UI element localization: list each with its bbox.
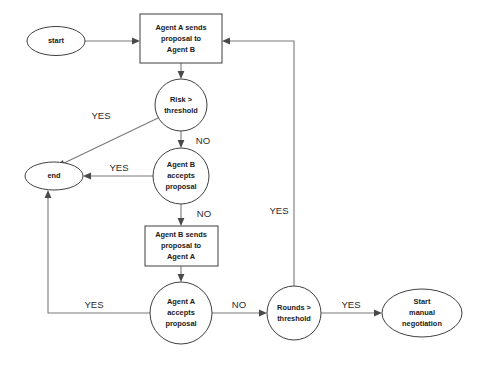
edge-label-agent-b-no: NO [197, 208, 211, 219]
edge-agent-b-accepts-to-end-yes: YES [83, 162, 153, 180]
node-agent-b-accepts-line3: proposal [165, 182, 196, 191]
node-agent-a-sends-line1: Agent A sends [155, 23, 206, 32]
arrow-head-icon [83, 173, 91, 180]
node-risk-threshold[interactable]: Risk > threshold [155, 79, 207, 131]
arrow-head-icon [178, 274, 185, 282]
edge-agent-b-accepts-to-agent-b-sends-no: NO [178, 204, 212, 226]
edges-layer: YES NO YES NO [45, 38, 382, 317]
edge-line [48, 196, 150, 313]
edge-risk-to-agent-b-accepts-no: NO [178, 131, 211, 148]
edge-label-risk-yes: YES [91, 110, 110, 121]
edge-rounds-to-start-manual-yes: YES [321, 299, 382, 317]
node-agent-a-accepts[interactable]: Agent A accepts proposal [150, 282, 212, 344]
arrow-head-icon [178, 218, 185, 226]
node-start[interactable]: start [27, 27, 85, 56]
edge-line [62, 118, 158, 164]
node-risk-threshold-line2: threshold [164, 106, 198, 115]
node-start-label: start [48, 36, 65, 45]
node-agent-b-sends-line3: Agent A [167, 252, 196, 261]
edge-label-agent-a-no: NO [232, 299, 246, 310]
edge-label-agent-b-yes: YES [109, 162, 128, 173]
node-agent-a-sends-line3: Agent B [167, 45, 195, 54]
edge-agent-b-sends-to-agent-a-accepts [178, 266, 185, 282]
node-agent-a-accepts-line3: proposal [165, 319, 196, 328]
node-end-label: end [47, 171, 61, 180]
node-agent-b-accepts-line2: accepts [167, 171, 195, 180]
edge-agent-a-accepts-to-rounds-no: NO [212, 299, 267, 317]
node-agent-b-accepts[interactable]: Agent B accepts proposal [153, 148, 209, 204]
edge-label-risk-no: NO [196, 135, 210, 146]
node-agent-a-accepts-line1: Agent A [167, 297, 196, 306]
edge-agent-a-accepts-to-end-yes: YES [45, 190, 150, 313]
edge-risk-to-end-yes: YES [57, 110, 158, 167]
arrow-head-icon [178, 71, 185, 79]
edge-line [228, 41, 294, 286]
node-rounds-threshold-line1: Rounds > [277, 303, 312, 312]
node-agent-b-sends[interactable]: Agent B sends proposal to Agent A [145, 226, 218, 266]
node-end[interactable]: end [25, 162, 83, 190]
node-start-manual-line2: manual [409, 308, 435, 317]
edge-label-rounds-yes: YES [341, 299, 360, 310]
edge-agent-a-sends-to-risk [178, 63, 185, 79]
edge-label-rounds-loop-yes: YES [269, 205, 288, 216]
node-start-manual-line3: negotiation [402, 319, 442, 328]
node-agent-b-accepts-line1: Agent B [167, 160, 195, 169]
node-agent-b-sends-line2: proposal to [161, 241, 202, 250]
node-start-manual-line1: Start [414, 297, 431, 306]
edge-label-agent-a-yes: YES [84, 299, 103, 310]
node-rounds-threshold-line2: threshold [277, 314, 311, 323]
node-risk-threshold-line1: Risk > [170, 95, 193, 104]
node-rounds-threshold[interactable]: Rounds > threshold [267, 286, 321, 340]
node-agent-a-sends[interactable]: Agent A sends proposal to Agent B [140, 14, 222, 63]
arrow-head-icon [132, 38, 140, 45]
flowchart-canvas: YES NO YES NO [0, 0, 479, 366]
flowchart-svg: YES NO YES NO [0, 0, 479, 366]
node-agent-b-sends-line1: Agent B sends [155, 230, 207, 239]
arrow-head-icon [222, 38, 230, 45]
edge-rounds-to-agent-a-sends-yes-loop: YES [222, 38, 294, 286]
node-agent-a-accepts-line2: accepts [167, 308, 195, 317]
edge-start-to-agent-a-sends [85, 38, 140, 45]
node-agent-a-sends-line2: proposal to [161, 34, 202, 43]
arrow-head-icon [259, 310, 267, 317]
arrow-head-icon [374, 310, 382, 317]
node-start-manual[interactable]: Start manual negotiation [382, 289, 462, 337]
arrow-head-icon [45, 190, 52, 198]
arrow-head-icon [178, 140, 185, 148]
